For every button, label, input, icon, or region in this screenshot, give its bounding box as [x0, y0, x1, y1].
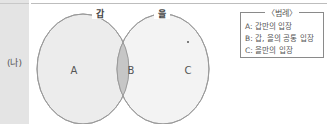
legend-box: 〈범례〉 A: 갑만의 입장 B: 갑, 을의 공통 입장 C: 을만의 입장: [240, 12, 324, 58]
legend-item-b: B: 갑, 을의 공통 입장: [245, 32, 314, 43]
region-label-a: A: [71, 65, 78, 76]
region-label-c: C: [185, 65, 192, 76]
dot-marker: [187, 41, 189, 43]
circle-gap: [37, 14, 129, 124]
legend-title: 〈범례〉: [265, 7, 299, 18]
legend-item-a: A: 갑만의 입장: [245, 20, 292, 31]
set-label-gap: 갑: [96, 8, 105, 19]
set-label-eul: 을: [158, 9, 166, 19]
region-label-b: B: [128, 65, 135, 76]
legend-item-c: C: 을만의 입장: [245, 44, 293, 55]
